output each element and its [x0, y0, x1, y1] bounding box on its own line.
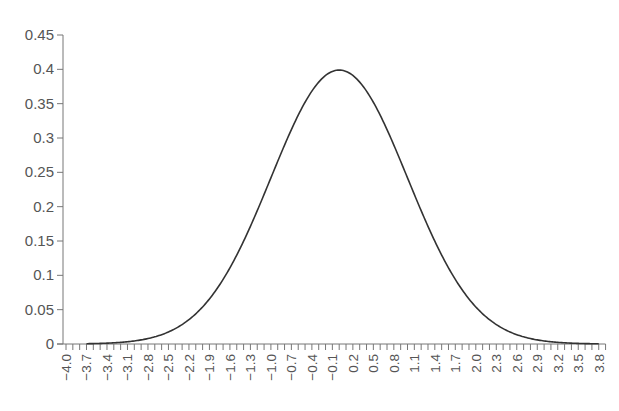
x-tick-label: 3.2 — [551, 354, 566, 373]
x-tick-label: 2.6 — [510, 354, 525, 373]
x-tick-label: −0.1 — [325, 354, 340, 381]
x-axis: −4.0−3.7−3.4−3.1−2.8−2.5−2.2−1.9−1.6−1.3… — [57, 344, 607, 381]
y-axis: 00.050.10.150.20.250.30.350.40.45 — [25, 26, 63, 352]
plot-area: 00.050.10.150.20.250.30.350.40.45 −4.0−3… — [0, 0, 619, 411]
x-tick-label: 1.1 — [407, 354, 422, 373]
x-tick-label: −3.4 — [100, 354, 115, 381]
x-tick-label: 3.8 — [592, 354, 607, 373]
x-tick-label: −0.4 — [305, 354, 320, 381]
x-tick-label: −3.1 — [120, 354, 135, 381]
x-tick-label: 3.5 — [571, 354, 586, 373]
y-tick-label: 0.35 — [25, 95, 54, 112]
y-tick-label: 0.05 — [25, 301, 54, 318]
x-tick-label: 1.7 — [448, 354, 463, 373]
x-tick-label: −2.5 — [161, 354, 176, 381]
x-tick-label: 1.4 — [428, 354, 443, 373]
x-tick-label: 2.0 — [469, 354, 484, 373]
x-tick-label: 0.8 — [387, 354, 402, 373]
normal-distribution-chart: 00.050.10.150.20.250.30.350.40.45 −4.0−3… — [0, 0, 619, 411]
x-tick-label: 0.2 — [346, 354, 361, 373]
x-tick-label: −2.2 — [182, 354, 197, 381]
y-tick-label: 0.3 — [33, 129, 54, 146]
x-tick-label: −3.7 — [79, 354, 94, 381]
x-tick-label: −2.8 — [141, 354, 156, 381]
x-tick-label: −4.0 — [59, 354, 74, 381]
y-tick-label: 0 — [46, 335, 54, 352]
y-tick-label: 0.4 — [33, 60, 54, 77]
y-tick-label: 0.45 — [25, 26, 54, 43]
x-tick-label: −1.6 — [223, 354, 238, 381]
x-tick-label: 2.9 — [530, 354, 545, 373]
density-curve — [86, 70, 598, 344]
x-tick-label: −1.3 — [243, 354, 258, 381]
y-tick-label: 0.1 — [33, 266, 54, 283]
x-tick-label: 0.5 — [366, 354, 381, 373]
y-tick-label: 0.25 — [25, 163, 54, 180]
x-tick-label: −1.0 — [264, 354, 279, 381]
y-tick-label: 0.2 — [33, 198, 54, 215]
x-tick-label: 2.3 — [489, 354, 504, 373]
y-tick-label: 0.15 — [25, 232, 54, 249]
x-tick-label: −1.9 — [202, 354, 217, 381]
x-tick-label: −0.7 — [284, 354, 299, 381]
